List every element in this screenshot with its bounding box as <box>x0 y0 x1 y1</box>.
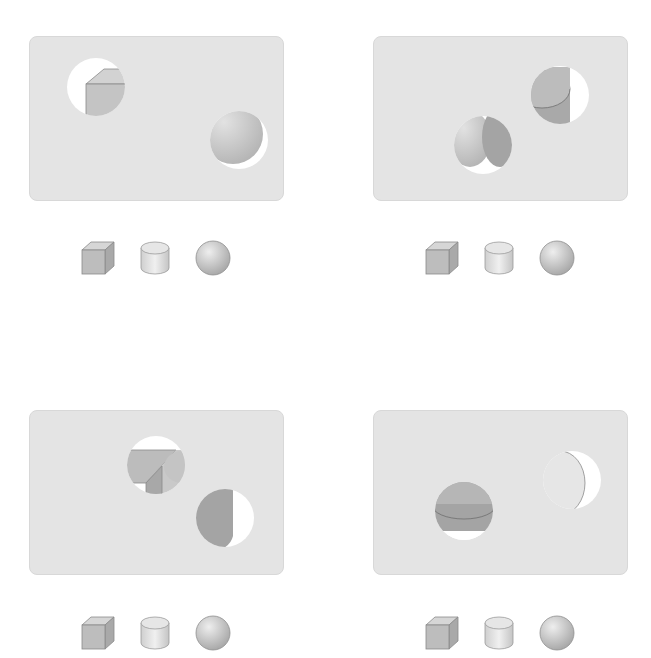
panel-holes <box>30 411 283 574</box>
panel-holes <box>374 411 627 574</box>
sphere-option-icon[interactable] <box>539 240 575 276</box>
cube-option-icon[interactable] <box>80 240 116 276</box>
puzzle-panel-bottom-left <box>29 410 284 575</box>
cylinder-side-icon <box>190 481 233 553</box>
sphere-option-icon[interactable] <box>539 615 575 651</box>
cylinder-top-icon <box>432 471 496 541</box>
cube-option-icon[interactable] <box>424 240 460 276</box>
sphere-cylinder-icon <box>449 107 518 167</box>
panel-holes <box>30 37 283 200</box>
options-row-top-left <box>80 240 250 280</box>
puzzle-panel-top-left <box>29 36 284 201</box>
sphere-option-icon[interactable] <box>195 240 231 276</box>
options-row-top-right <box>424 240 594 280</box>
options-row-bottom-right <box>424 615 594 655</box>
cube-edges-icon <box>126 450 200 501</box>
puzzle-panel-bottom-right <box>373 410 628 575</box>
cylinder-option-icon[interactable] <box>483 240 515 276</box>
cube-corner-icon <box>86 69 140 124</box>
cube-option-icon[interactable] <box>424 615 460 651</box>
options-row-bottom-left <box>80 615 250 655</box>
puzzle-panel-top-right <box>373 36 628 201</box>
sphere-light-icon <box>535 451 585 515</box>
sphere-option-icon[interactable] <box>195 615 231 651</box>
sphere-icon <box>203 104 263 164</box>
panel-holes <box>374 37 627 200</box>
cube-option-icon[interactable] <box>80 615 116 651</box>
cylinder-icon <box>514 67 570 137</box>
cylinder-option-icon[interactable] <box>139 240 171 276</box>
cylinder-option-icon[interactable] <box>483 615 515 651</box>
cylinder-option-icon[interactable] <box>139 615 171 651</box>
